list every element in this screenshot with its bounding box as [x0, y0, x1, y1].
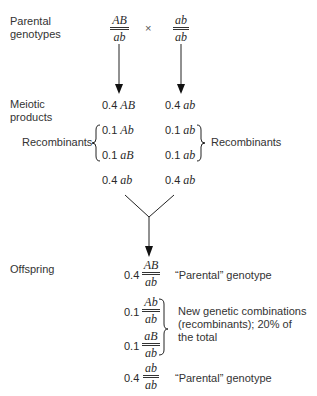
- meiotic-right-item: 0.4 ab: [165, 98, 195, 113]
- offspring-label: Offspring: [10, 263, 54, 276]
- parental-genotype-note: “Parental” genotype: [175, 269, 272, 282]
- offspring-frequency: 0.1: [124, 340, 139, 352]
- frequency: 0.4: [165, 174, 180, 186]
- label-line: Parental: [10, 15, 61, 28]
- allele-bottom: ab: [145, 379, 157, 391]
- allele-top: Ab: [144, 296, 157, 308]
- meiotic-right-item: 0.1 ab: [165, 123, 195, 138]
- allele-top: AB: [144, 259, 159, 271]
- offspring-genotype: aB ab: [142, 330, 160, 359]
- frequency: 0.1: [165, 149, 180, 161]
- left-brace: [92, 125, 100, 161]
- offspring-brace: [159, 299, 168, 355]
- frequency: 0.4: [165, 99, 180, 111]
- note-line: the total: [178, 331, 306, 344]
- genotype: ab: [183, 148, 195, 162]
- offspring-frequency: 0.1: [124, 306, 139, 318]
- meiotic-left-item: 0.4 AB: [102, 98, 135, 113]
- right-brace: [197, 125, 205, 161]
- note-line: New genetic combinations: [178, 305, 306, 318]
- meiotic-right-item: 0.4 ab: [165, 173, 195, 188]
- label-line: Meiotic: [10, 98, 52, 111]
- offspring-genotype: Ab ab: [142, 296, 160, 325]
- allele-top: aB: [144, 330, 157, 342]
- merge-arrowhead: [145, 246, 153, 257]
- offspring-frequency: 0.4: [124, 269, 139, 281]
- genotype: ab: [183, 98, 195, 112]
- frequency: 0.4: [102, 99, 117, 111]
- genotype: ab: [183, 173, 195, 187]
- allele-bottom: ab: [114, 31, 126, 43]
- cross-symbol: ×: [145, 22, 151, 35]
- parent-left-genotype: AB ab: [110, 14, 129, 43]
- frequency: 0.1: [165, 124, 180, 136]
- allele-top: ab: [175, 14, 187, 26]
- meiotic-left-item: 0.1 aB: [102, 148, 134, 163]
- meiotic-left-item: 0.4 ab: [102, 173, 132, 188]
- meiotic-left-item: 0.1 Ab: [102, 123, 134, 138]
- right-recombinants-label: Recombinants: [211, 136, 281, 149]
- offspring-frequency: 0.4: [124, 372, 139, 384]
- parental-genotypes-label: Parental genotypes: [10, 15, 61, 41]
- allele-top: AB: [112, 14, 127, 26]
- note-line: (recombinants); 20% of: [178, 318, 306, 331]
- genotype: AB: [120, 98, 135, 112]
- label-line: products: [10, 111, 52, 124]
- recombinant-note: New genetic combinations (recombinants);…: [178, 305, 306, 344]
- offspring-genotype: AB ab: [142, 259, 160, 288]
- allele-top: ab: [145, 362, 157, 374]
- genotype: Ab: [120, 123, 133, 137]
- left-arrowhead: [115, 84, 123, 94]
- offspring-genotype: ab ab: [143, 362, 159, 391]
- genotype: aB: [120, 148, 133, 162]
- allele-bottom: ab: [175, 31, 187, 43]
- meiotic-right-item: 0.1 ab: [165, 148, 195, 163]
- allele-bottom: ab: [145, 313, 157, 325]
- label-line: genotypes: [10, 28, 61, 41]
- meiotic-products-label: Meiotic products: [10, 98, 52, 124]
- parent-right-genotype: ab ab: [173, 14, 189, 43]
- genotype: ab: [183, 123, 195, 137]
- left-recombinants-label: Recombinants: [22, 136, 92, 149]
- parental-genotype-note: “Parental” genotype: [175, 372, 272, 385]
- frequency: 0.1: [102, 124, 117, 136]
- frequency: 0.4: [102, 174, 117, 186]
- allele-bottom: ab: [145, 347, 157, 359]
- allele-bottom: ab: [145, 276, 157, 288]
- right-arrowhead: [177, 84, 185, 94]
- frequency: 0.1: [102, 149, 117, 161]
- genotype: ab: [120, 173, 132, 187]
